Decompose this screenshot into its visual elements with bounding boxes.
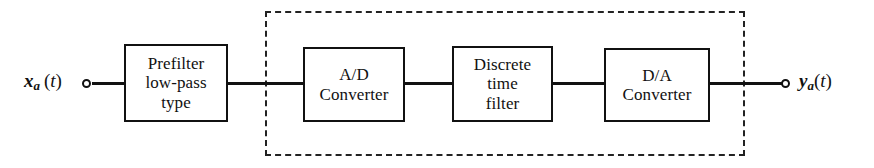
- block-prefilter-line-2: low-pass: [145, 73, 206, 92]
- block-discrete-time-filter-line-1: Discrete: [474, 55, 531, 74]
- block-discrete-time-filter: Discrete time filter: [452, 46, 553, 122]
- output-signal-close-paren: ): [826, 70, 832, 91]
- block-da-converter: D/A Converter: [604, 48, 710, 122]
- input-signal-label: xa(t): [24, 70, 62, 94]
- block-ad-converter-line-2: Converter: [320, 85, 389, 104]
- block-prefilter-line-1: Prefilter: [148, 54, 205, 73]
- block-discrete-time-filter-line-2: time: [487, 74, 518, 93]
- wire-input-to-prefilter: [92, 82, 126, 85]
- block-da-converter-line-2: Converter: [623, 85, 692, 104]
- output-terminal-node: [781, 79, 790, 88]
- wire-prefilter-to-adc: [227, 82, 305, 85]
- block-da-converter-line-1: D/A: [642, 66, 672, 85]
- block-prefilter-line-3: type: [161, 93, 191, 112]
- block-ad-converter: A/D Converter: [303, 47, 405, 122]
- input-signal-close-paren: ): [56, 70, 62, 91]
- input-signal-variable: x: [24, 70, 34, 91]
- input-signal-subscript: a: [34, 78, 41, 93]
- input-terminal-node: [82, 79, 91, 88]
- wire-dac-to-output: [709, 82, 787, 85]
- block-prefilter: Prefilter low-pass type: [124, 44, 228, 122]
- block-diagram-canvas: xa(t) ya(t) Prefilter low-pass type A/D …: [0, 0, 874, 168]
- block-ad-converter-line-1: A/D: [339, 65, 369, 84]
- wire-adc-to-discrete-filter: [404, 82, 454, 85]
- wire-discrete-filter-to-dac: [552, 82, 606, 85]
- output-signal-label: ya(t): [799, 70, 832, 94]
- block-discrete-time-filter-line-3: filter: [486, 94, 520, 113]
